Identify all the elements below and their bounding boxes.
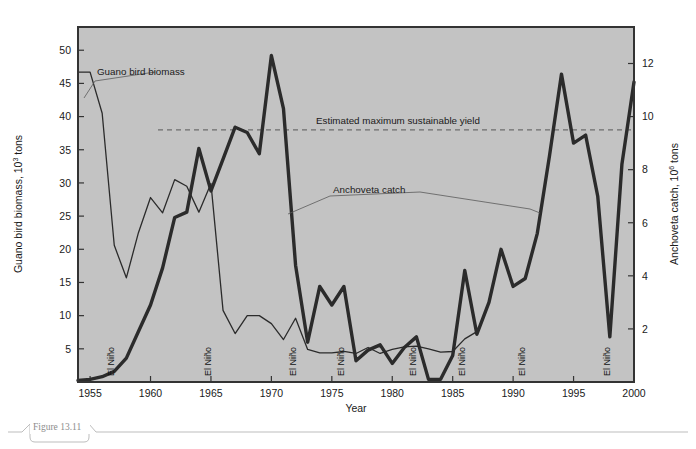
left-tick-label: 10 [59, 309, 71, 321]
right-tick-label: 10 [642, 110, 654, 122]
el-nino-label: El Niño [336, 347, 346, 376]
left-tick-label: 50 [59, 44, 71, 56]
annotation-anchoveta-catch: Anchoveta catch [333, 184, 405, 195]
annotation-max-sustainable-yield: Estimated maximum sustainable yield [316, 115, 480, 126]
left-tick-label: 5 [65, 343, 71, 355]
left-tick-label: 45 [59, 77, 71, 89]
x-axis-title: Year [345, 402, 367, 414]
right-tick-label: 8 [642, 163, 648, 175]
right-tick-label: 6 [642, 217, 648, 229]
el-nino-label: El Niño [203, 347, 213, 376]
y-right-title-main: Anchoveta catch, 10 [668, 170, 680, 265]
y-left-title-tail: tons [12, 135, 24, 158]
el-nino-label: El Niño [408, 347, 418, 376]
figure-container: 5101520253035404550 24681012 19551960196… [0, 0, 696, 449]
left-tick-label: 30 [59, 177, 71, 189]
left-tick-label: 35 [59, 144, 71, 156]
x-tick-label: 1960 [139, 387, 163, 399]
x-tick-label: 1995 [562, 387, 586, 399]
el-nino-label: El Niño [602, 347, 612, 376]
x-tick-label: 2000 [622, 387, 646, 399]
y-right-title-tail: tons [668, 143, 680, 166]
caption-text: Figure 13.11 [33, 422, 81, 432]
el-nino-label: El Niño [517, 347, 527, 376]
x-tick-label: 1990 [501, 387, 525, 399]
el-nino-label: El Niño [288, 347, 298, 376]
x-tick-label: 1970 [260, 387, 284, 399]
el-nino-label: El Niño [457, 347, 467, 376]
x-tick-label: 1955 [78, 387, 102, 399]
x-tick-label: 1980 [381, 387, 405, 399]
right-tick-label: 2 [642, 323, 648, 335]
x-tick-label: 1975 [320, 387, 344, 399]
figure-13-11-chart: 5101520253035404550 24681012 19551960196… [0, 0, 696, 449]
left-tick-label: 25 [59, 210, 71, 222]
left-tick-label: 15 [59, 276, 71, 288]
x-tick-label: 1965 [199, 387, 223, 399]
right-tick-label: 12 [642, 57, 654, 69]
annotation-guano-bird-biomass: Guano bird biomass [97, 66, 185, 77]
y-left-title-main: Guano bird biomass, 10 [12, 161, 24, 273]
right-tick-label: 4 [642, 270, 648, 282]
y-left-axis-title: Guano bird biomass, 103 tons [12, 135, 24, 273]
x-tick-label: 1985 [441, 387, 465, 399]
y-right-axis-title: Anchoveta catch, 106 tons [668, 143, 680, 265]
plot-area-background [78, 27, 634, 382]
el-nino-label: El Niño [106, 347, 116, 376]
left-tick-label: 20 [59, 243, 71, 255]
left-tick-label: 40 [59, 110, 71, 122]
